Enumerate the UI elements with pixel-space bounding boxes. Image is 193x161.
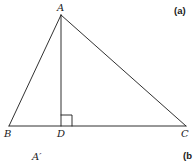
vertex-label-a: A [56, 2, 64, 13]
panel-label-b: (b [183, 150, 192, 161]
vertex-label-d: D [56, 128, 65, 139]
segment-ac [61, 15, 186, 126]
vertex-label-a-prime: A′ [31, 151, 42, 161]
vertex-label-c: C [181, 128, 189, 139]
right-angle-marker [61, 115, 72, 126]
panel-label-a: (a) [174, 5, 186, 16]
triangle-diagram: A B D C A′ (a) (b [0, 0, 193, 161]
vertex-label-b: B [3, 128, 11, 139]
segment-ab [9, 15, 61, 126]
